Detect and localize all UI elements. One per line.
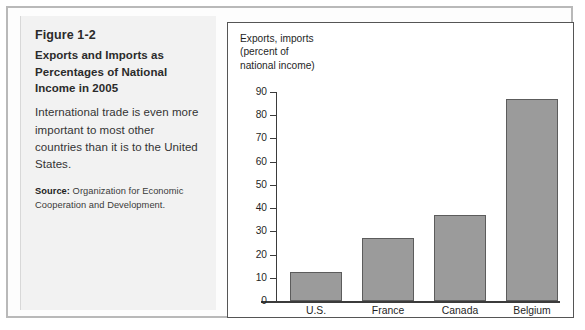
bar-france (362, 238, 414, 301)
bar-canada (434, 215, 486, 301)
bar-belgium (506, 99, 558, 301)
figure-source-label: Source: (35, 186, 70, 196)
bar-u-s (290, 272, 342, 301)
x-axis-line (261, 301, 560, 303)
y-axis-tick (270, 185, 277, 186)
y-axis-tick (270, 255, 277, 256)
y-axis-tick-label: 50 (241, 180, 267, 190)
figure-caption-panel: Figure 1-2 Exports and Imports as Percen… (20, 16, 216, 310)
y-axis-tick (270, 301, 277, 302)
y-axis-tick-label: 60 (241, 157, 267, 167)
y-axis-tick (270, 231, 277, 232)
x-axis-label-canada: Canada (424, 306, 496, 316)
y-axis-tick (270, 208, 277, 209)
y-axis-tick-label: 30 (241, 226, 267, 236)
x-axis-label-france: France (352, 306, 424, 316)
y-axis-tick (270, 162, 277, 163)
x-axis-label-belgium: Belgium (496, 306, 568, 316)
y-axis-line (276, 92, 277, 302)
plot-area: 0102030405060708090U.S.FranceCanadaBelgi… (228, 23, 575, 319)
figure-description: International trade is even more importa… (35, 104, 202, 173)
y-axis-tick-label: 40 (241, 203, 267, 213)
y-axis-tick-label: 0 (241, 296, 267, 306)
y-axis-tick-label: 70 (241, 133, 267, 143)
y-axis-tick (270, 92, 277, 93)
x-axis-label-u-s: U.S. (280, 306, 352, 316)
y-axis-tick-label: 20 (241, 250, 267, 260)
figure-frame: Figure 1-2 Exports and Imports as Percen… (6, 6, 573, 318)
chart-panel: Exports, imports (percent of national in… (227, 22, 574, 318)
figure-source: Source: Organization for Economic Cooper… (35, 185, 202, 213)
figure-number: Figure 1-2 (35, 28, 202, 42)
y-axis-tick-label: 80 (241, 110, 267, 120)
y-axis-tick (270, 278, 277, 279)
figure-title: Exports and Imports as Percentages of Na… (35, 47, 202, 96)
y-axis-tick (270, 115, 277, 116)
y-axis-tick (270, 138, 277, 139)
y-axis-tick-label: 90 (241, 87, 267, 97)
y-axis-tick-label: 10 (241, 273, 267, 283)
